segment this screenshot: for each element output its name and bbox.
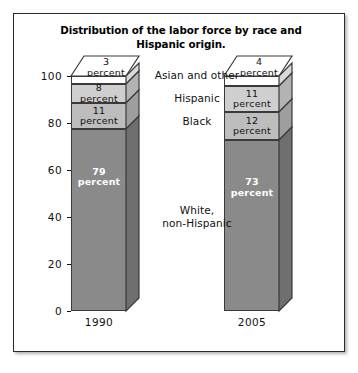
bar-left-segment-hispanic: 8 percent [71, 84, 127, 103]
bar-right-side-white [279, 127, 295, 312]
y-tick-label-20: 20 [34, 258, 62, 270]
y-tick-label-100: 100 [34, 70, 62, 82]
y-tick-0 [67, 311, 71, 312]
legend-label-white: White, non-Hispanic [145, 204, 249, 230]
y-tick-label-60: 60 [34, 164, 62, 176]
bar-left-side-white [126, 116, 142, 312]
category-label-2005: 2005 [212, 316, 292, 328]
legend-label-hispanic: Hispanic [145, 92, 249, 105]
y-tick-label-80: 80 [34, 117, 62, 129]
bar-left-segment-white: 79 percent [71, 129, 127, 311]
y-tick-label-0: 0 [34, 305, 62, 317]
bar-left-segment-black: 11 percent [71, 103, 127, 129]
legend-label-asian: Asian and other [145, 69, 249, 82]
chart-frame: Distribution of the labor force by race … [13, 13, 345, 352]
category-label-1990: 1990 [59, 316, 139, 328]
y-tick-label-40: 40 [34, 211, 62, 223]
plot-area: 100 80 60 40 20 0 3 percent 8 percent 11… [14, 14, 346, 353]
legend-label-black: Black [145, 115, 249, 128]
